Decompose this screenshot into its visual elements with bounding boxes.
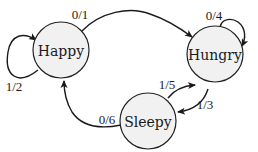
edge-label-happy-to-hungry: 0/1 — [72, 7, 89, 22]
state-label-happy: Happy — [38, 43, 84, 59]
edge-label-happy-to-happy: 1/2 — [6, 79, 23, 94]
edge-happy-to-hungry — [82, 11, 192, 37]
edge-label-hungry-to-hungry: 0/4 — [206, 8, 223, 23]
state-hungry: Hungry — [187, 26, 243, 82]
edge-label-hungry-to-sleepy: 1/3 — [197, 97, 214, 112]
edge-label-sleepy-to-hungry: 1/5 — [159, 77, 176, 92]
state-diagram: Happy Hungry Sleepy 1/2 0/1 0/4 1/3 1/5 … — [0, 0, 258, 152]
state-sleepy: Sleepy — [120, 93, 176, 149]
state-label-hungry: Hungry — [188, 47, 242, 63]
edge-label-sleepy-to-happy: 0/6 — [99, 112, 116, 127]
state-label-sleepy: Sleepy — [124, 114, 172, 130]
state-happy: Happy — [33, 22, 89, 78]
